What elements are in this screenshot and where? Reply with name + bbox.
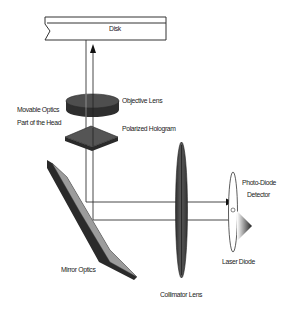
optical-pickup-diagram: Disk Objective Lens Movable Optics Part … [0, 0, 290, 313]
photo-diode-label-line1: Photo-Diode [242, 177, 276, 188]
objective-lens-label: Objective Lens [122, 95, 162, 106]
arrow-up-icon [90, 44, 96, 53]
photo-diode-label-line2: Detector [247, 189, 270, 200]
collimator-lens [176, 142, 188, 278]
collimator-lens-label: Collimator Lens [160, 289, 202, 300]
objective-lens [66, 94, 119, 117]
photo-diode-detector [229, 172, 238, 252]
laser-diode-label: Laser Diode [222, 256, 255, 267]
movable-optics-label-line1: Movable Optics [17, 104, 59, 115]
movable-optics-label-line2: Part of the Head [17, 117, 61, 128]
polarized-hologram [65, 126, 118, 151]
mirror-optics-label: Mirror Optics [61, 264, 95, 275]
disk-label: Disk [98, 23, 132, 34]
laser-diode [237, 211, 252, 241]
polarized-hologram-label: Polarized Hologram [122, 123, 176, 134]
horizontal-beams [86, 199, 237, 221]
